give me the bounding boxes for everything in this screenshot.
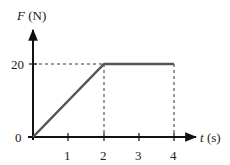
y-tick-label-20: 20 [11,57,24,72]
x-tick-label-1: 1 [64,148,71,163]
origin-label: 0 [15,130,22,145]
y-axis-label: F (N) [16,8,46,23]
x-tick-label-2: 2 [100,148,107,163]
force-time-chart: F (N) t (s) 20 0 1 2 3 4 [0,0,230,165]
x-tick-label-4: 4 [170,148,177,163]
x-axis-label: t (s) [200,130,221,145]
x-tick-label-3: 3 [135,148,142,163]
